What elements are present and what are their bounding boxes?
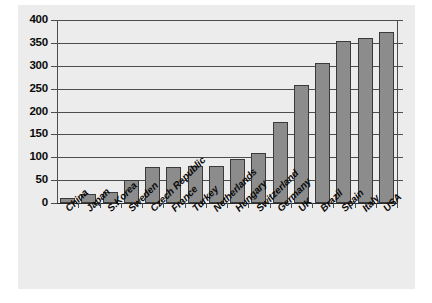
- y-tick-mark-0: [51, 203, 57, 204]
- plot-area: [57, 20, 397, 203]
- y-tick-label-300: 300: [4, 59, 48, 71]
- y-tick-mark-200: [51, 112, 57, 113]
- bar: [379, 32, 394, 203]
- y-tick-mark-400: [51, 20, 57, 21]
- y-tick-label-50: 50: [4, 173, 48, 185]
- gridline-400: [57, 20, 397, 21]
- y-tick-mark-right-100: [397, 157, 403, 158]
- y-tick-mark-350: [51, 43, 57, 44]
- y-tick-mark-right-400: [397, 20, 403, 21]
- y-tick-label-350: 350: [4, 36, 48, 48]
- y-tick-label-250: 250: [4, 82, 48, 94]
- y-tick-label-0: 0: [4, 196, 48, 208]
- y-tick-label-400: 400: [4, 13, 48, 25]
- y-tick-mark-100: [51, 157, 57, 158]
- y-tick-mark-300: [51, 66, 57, 67]
- y-tick-label-100: 100: [4, 150, 48, 162]
- y-axis-tick-labels: 400350300250200150100500: [0, 20, 48, 203]
- y-tick-label-200: 200: [4, 105, 48, 117]
- y-tick-mark-50: [51, 180, 57, 181]
- y-tick-mark-right-150: [397, 134, 403, 135]
- x-axis-category-labels: ChinaJapanS.KoreaSwedenCzech RepublicFra…: [57, 206, 397, 286]
- y-tick-mark-right-350: [397, 43, 403, 44]
- y-tick-mark-right-250: [397, 89, 403, 90]
- y-tick-mark-right-200: [397, 112, 403, 113]
- chart-plot-wrapper: 400350300250200150100500 ChinaJapanS.Kor…: [0, 0, 432, 303]
- bar: [358, 38, 373, 203]
- bar-chart-figure: 400350300250200150100500 ChinaJapanS.Kor…: [0, 0, 432, 303]
- bar: [315, 63, 330, 203]
- bar: [336, 41, 351, 203]
- y-tick-mark-right-300: [397, 66, 403, 67]
- y-tick-mark-250: [51, 89, 57, 90]
- y-tick-label-150: 150: [4, 127, 48, 139]
- y-tick-mark-right-50: [397, 180, 403, 181]
- y-tick-mark-150: [51, 134, 57, 135]
